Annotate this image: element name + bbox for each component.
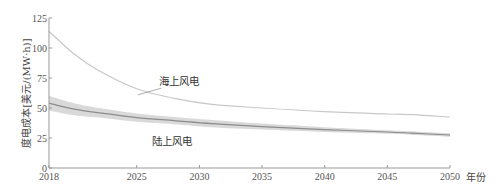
axes: 0255075100125201820252030203520402045205… bbox=[32, 13, 460, 183]
onshore-uncertainty-band bbox=[49, 96, 450, 137]
annotation-leader-line bbox=[138, 88, 161, 95]
x-tick-label: 2040 bbox=[315, 171, 335, 182]
y-tick-label: 100 bbox=[32, 43, 47, 54]
y-axis-label: 度电成本[美元/(MW·h)] bbox=[20, 38, 32, 147]
x-tick-label: 2018 bbox=[39, 171, 59, 182]
series-line bbox=[49, 103, 450, 135]
uncertainty-band bbox=[49, 96, 450, 137]
x-tick-label: 2035 bbox=[252, 171, 272, 182]
annotations: 海上风电陆上风电 bbox=[138, 75, 200, 147]
series-line bbox=[49, 31, 450, 117]
lcoe-chart: 0255075100125201820252030203520402045205… bbox=[0, 0, 502, 196]
series-lines bbox=[49, 31, 450, 135]
x-tick-label: 2045 bbox=[377, 171, 397, 182]
series-annotation: 海上风电 bbox=[159, 75, 200, 87]
x-tick-label: 2050 bbox=[440, 171, 460, 182]
y-tick-label: 25 bbox=[37, 133, 47, 144]
y-tick-label: 50 bbox=[37, 103, 47, 114]
x-axis-label: 年份 bbox=[466, 171, 486, 183]
y-tick-label: 75 bbox=[37, 73, 47, 84]
series-annotation: 陆上风电 bbox=[152, 135, 193, 147]
x-tick-label: 2030 bbox=[189, 171, 209, 182]
x-tick-label: 2025 bbox=[127, 171, 147, 182]
y-tick-label: 125 bbox=[32, 13, 47, 24]
